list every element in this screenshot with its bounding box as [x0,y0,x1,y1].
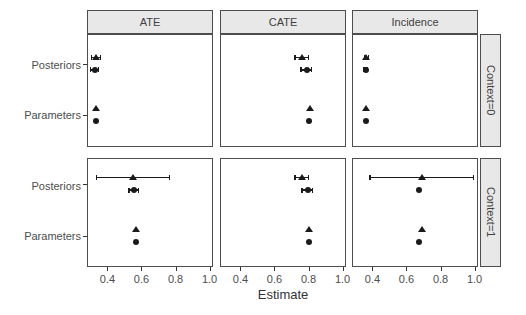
facet-strip-incidence-label: Incidence [391,16,438,28]
y-axis-tick [83,115,87,116]
panel-incidence-context1 [352,158,478,267]
error-bar-cap-min [294,55,296,60]
data-point-circle [131,187,137,193]
data-point-circle [93,118,99,124]
error-bar-cap-max [312,188,314,193]
y-axis-label-parameters-row0: Parameters [0,108,81,122]
data-point-circle [304,67,310,73]
facet-strip-context1-label: Context=1 [485,187,497,237]
data-point-circle [363,118,369,124]
data-point-circle [133,239,139,245]
error-bar-cap-min [369,175,371,180]
x-axis-tick-label: 0.8 [433,273,448,285]
x-axis-tick-label: 1.0 [335,273,350,285]
data-point-circle [306,239,312,245]
x-axis-tick-label: 0.4 [100,273,115,285]
x-axis-tick [210,267,211,271]
x-axis-tick [441,267,442,271]
x-axis-title: Estimate [258,287,309,302]
error-bar-cap-max [311,67,313,72]
error-bar-cap-min [294,175,296,180]
y-axis-label-posteriors-row1: Posteriors [0,179,81,193]
data-point-triangle [132,226,140,232]
error-bar-cap-max [308,55,310,60]
facet-strip-context0: Context=0 [480,34,501,147]
x-axis-tick [309,267,310,271]
data-point-triangle [418,174,426,180]
x-axis-tick [141,267,142,271]
data-point-triangle [362,105,370,111]
data-point-circle [305,187,311,193]
x-axis-tick [343,267,344,271]
y-axis-tick [83,236,87,237]
error-bar-cap-max [473,175,475,180]
y-axis-tick [83,184,87,185]
x-axis-tick-label: 1.0 [467,273,482,285]
error-bar-cap-max [100,55,102,60]
error-bar-cap-min [300,67,302,72]
x-axis-tick-label: 1.0 [202,273,217,285]
facet-strip-context0-label: Context=0 [485,65,497,115]
error-bar-cap-min [128,188,130,193]
data-point-triangle [298,174,306,180]
data-point-circle [92,67,98,73]
x-axis-tick-label: 0.4 [233,273,248,285]
data-point-circle [363,67,369,73]
facet-strip-ate-label: ATE [140,16,161,28]
faceted-dot-plot: ATE CATE Incidence Context=0 Context=1 P… [0,0,526,315]
x-axis-tick [240,267,241,271]
data-point-triangle [418,226,426,232]
y-axis-label-parameters-row1: Parameters [0,229,81,243]
x-axis-tick-label: 0.4 [365,273,380,285]
error-bar-cap-max [138,188,140,193]
x-axis-tick-label: 0.8 [168,273,183,285]
error-bar-cap-max [98,67,100,72]
panel-cate-context0 [220,34,346,147]
y-axis-label-posteriors-row0: Posteriors [0,58,81,72]
panel-ate-context0 [87,34,213,147]
facet-strip-cate-label: CATE [269,16,298,28]
x-axis-tick [372,267,373,271]
error-bar-cap-max [169,175,171,180]
y-axis-tick [83,64,87,65]
x-axis-tick [176,267,177,271]
error-bar-cap-min [96,175,98,180]
x-axis-tick [107,267,108,271]
facet-strip-cate: CATE [220,10,346,34]
panel-ate-context1 [87,158,213,267]
facet-strip-context1: Context=1 [480,158,501,267]
x-axis-tick-label: 0.6 [399,273,414,285]
data-point-triangle [306,105,314,111]
x-axis-tick-label: 0.8 [301,273,316,285]
x-axis-tick [274,267,275,271]
data-point-triangle [92,54,100,60]
error-bar-cap-max [308,175,310,180]
panel-cate-context1 [220,158,346,267]
data-point-triangle [92,105,100,111]
facet-strip-ate: ATE [87,10,213,34]
x-axis-tick [475,267,476,271]
x-axis-tick-label: 0.6 [267,273,282,285]
x-axis-tick [406,267,407,271]
x-axis-tick-label: 0.6 [134,273,149,285]
error-bar-cap-min [301,188,303,193]
data-point-triangle [362,54,370,60]
panel-incidence-context0 [352,34,478,147]
data-point-triangle [298,54,306,60]
facet-strip-incidence: Incidence [352,10,478,34]
data-point-triangle [305,226,313,232]
data-point-triangle [129,174,137,180]
